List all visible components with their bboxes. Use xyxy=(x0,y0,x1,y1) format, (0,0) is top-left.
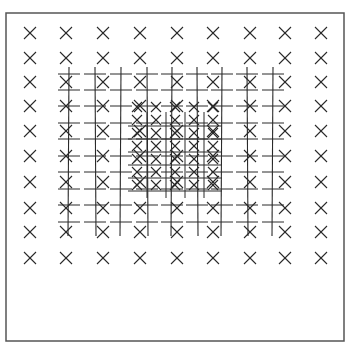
x-marker-icon xyxy=(24,202,36,214)
x-marker-icon xyxy=(207,76,219,88)
x-marker-icon xyxy=(97,27,109,39)
x-marker-icon xyxy=(60,76,72,88)
x-marker-icon xyxy=(279,252,291,264)
x-marker-icon xyxy=(315,150,327,162)
x-marker-icon xyxy=(24,252,36,264)
x-marker-icon xyxy=(60,226,72,238)
x-marker-icon xyxy=(207,252,219,264)
x-marker-icon xyxy=(279,76,291,88)
x-marker-icon xyxy=(207,27,219,39)
x-marker-icon xyxy=(132,128,142,138)
x-marker-icon xyxy=(171,27,183,39)
x-marker-icon xyxy=(24,27,36,39)
x-marker-icon xyxy=(315,52,327,64)
x-marker-icon xyxy=(315,125,327,137)
x-marker-icon xyxy=(24,76,36,88)
x-marker-icon xyxy=(171,52,183,64)
x-marker-icon xyxy=(244,27,256,39)
grid-vertical-line xyxy=(272,67,273,236)
x-marker-icon xyxy=(134,226,146,238)
x-marker-icon xyxy=(134,27,146,39)
x-marker-icon xyxy=(151,128,161,138)
x-marker-icon xyxy=(244,202,256,214)
x-marker-icon xyxy=(244,252,256,264)
x-marker-icon xyxy=(134,252,146,264)
x-marker-icon xyxy=(97,52,109,64)
x-marker-icon xyxy=(208,141,218,151)
x-marker-icon xyxy=(60,125,72,137)
x-marker-icon xyxy=(315,100,327,112)
x-marker-icon xyxy=(171,226,183,238)
x-marker-icon xyxy=(60,202,72,214)
x-marker-icon xyxy=(315,252,327,264)
x-marker-icon xyxy=(134,76,146,88)
x-marker-icon xyxy=(207,52,219,64)
x-marker-icon xyxy=(24,150,36,162)
x-marker-icon xyxy=(151,141,161,151)
x-marker-icon xyxy=(244,226,256,238)
x-marker-icon xyxy=(279,52,291,64)
x-marker-icon xyxy=(134,202,146,214)
sampling-grid-figure xyxy=(0,0,350,344)
x-marker-icon xyxy=(24,226,36,238)
x-marker-icon xyxy=(60,176,72,188)
x-marker-icon xyxy=(171,252,183,264)
x-marker-icon xyxy=(279,226,291,238)
x-marker-icon xyxy=(315,27,327,39)
x-marker-icon xyxy=(97,202,109,214)
x-marker-icon xyxy=(171,76,183,88)
x-marker-icon xyxy=(171,202,183,214)
x-marker-icon xyxy=(315,202,327,214)
figure-frame xyxy=(6,13,344,341)
x-marker-icon xyxy=(279,27,291,39)
x-marker-icon xyxy=(24,176,36,188)
x-marker-icon xyxy=(134,52,146,64)
x-marker-icon xyxy=(208,128,218,138)
x-marker-icon xyxy=(279,176,291,188)
x-marker-icon xyxy=(60,27,72,39)
grid-vertical-line xyxy=(120,67,121,236)
x-marker-icon xyxy=(97,76,109,88)
x-marker-icon xyxy=(279,125,291,137)
grid-diagram xyxy=(0,0,350,344)
x-marker-icon xyxy=(134,125,146,137)
x-marker-icon xyxy=(97,176,109,188)
x-marker-icon xyxy=(244,76,256,88)
x-marker-icon xyxy=(315,176,327,188)
x-marker-icon xyxy=(244,52,256,64)
x-marker-icon xyxy=(97,226,109,238)
x-marker-icon xyxy=(207,226,219,238)
x-marker-icon xyxy=(97,125,109,137)
x-marker-icon xyxy=(208,102,218,112)
x-marker-icon xyxy=(24,125,36,137)
x-marker-icon xyxy=(315,76,327,88)
x-marker-icon xyxy=(207,202,219,214)
x-marker-icon xyxy=(24,52,36,64)
x-marker-icon xyxy=(244,176,256,188)
x-marker-icon xyxy=(60,252,72,264)
x-marker-icon xyxy=(60,52,72,64)
x-marker-icon xyxy=(279,202,291,214)
x-marker-icon xyxy=(151,102,161,112)
x-marker-icon xyxy=(244,125,256,137)
x-marker-icon xyxy=(97,252,109,264)
x-marker-icon xyxy=(207,125,219,137)
x-marker-icon xyxy=(132,141,142,151)
x-marker-icon xyxy=(315,226,327,238)
grid-vertical-line xyxy=(95,67,96,236)
x-marker-icon xyxy=(24,100,36,112)
